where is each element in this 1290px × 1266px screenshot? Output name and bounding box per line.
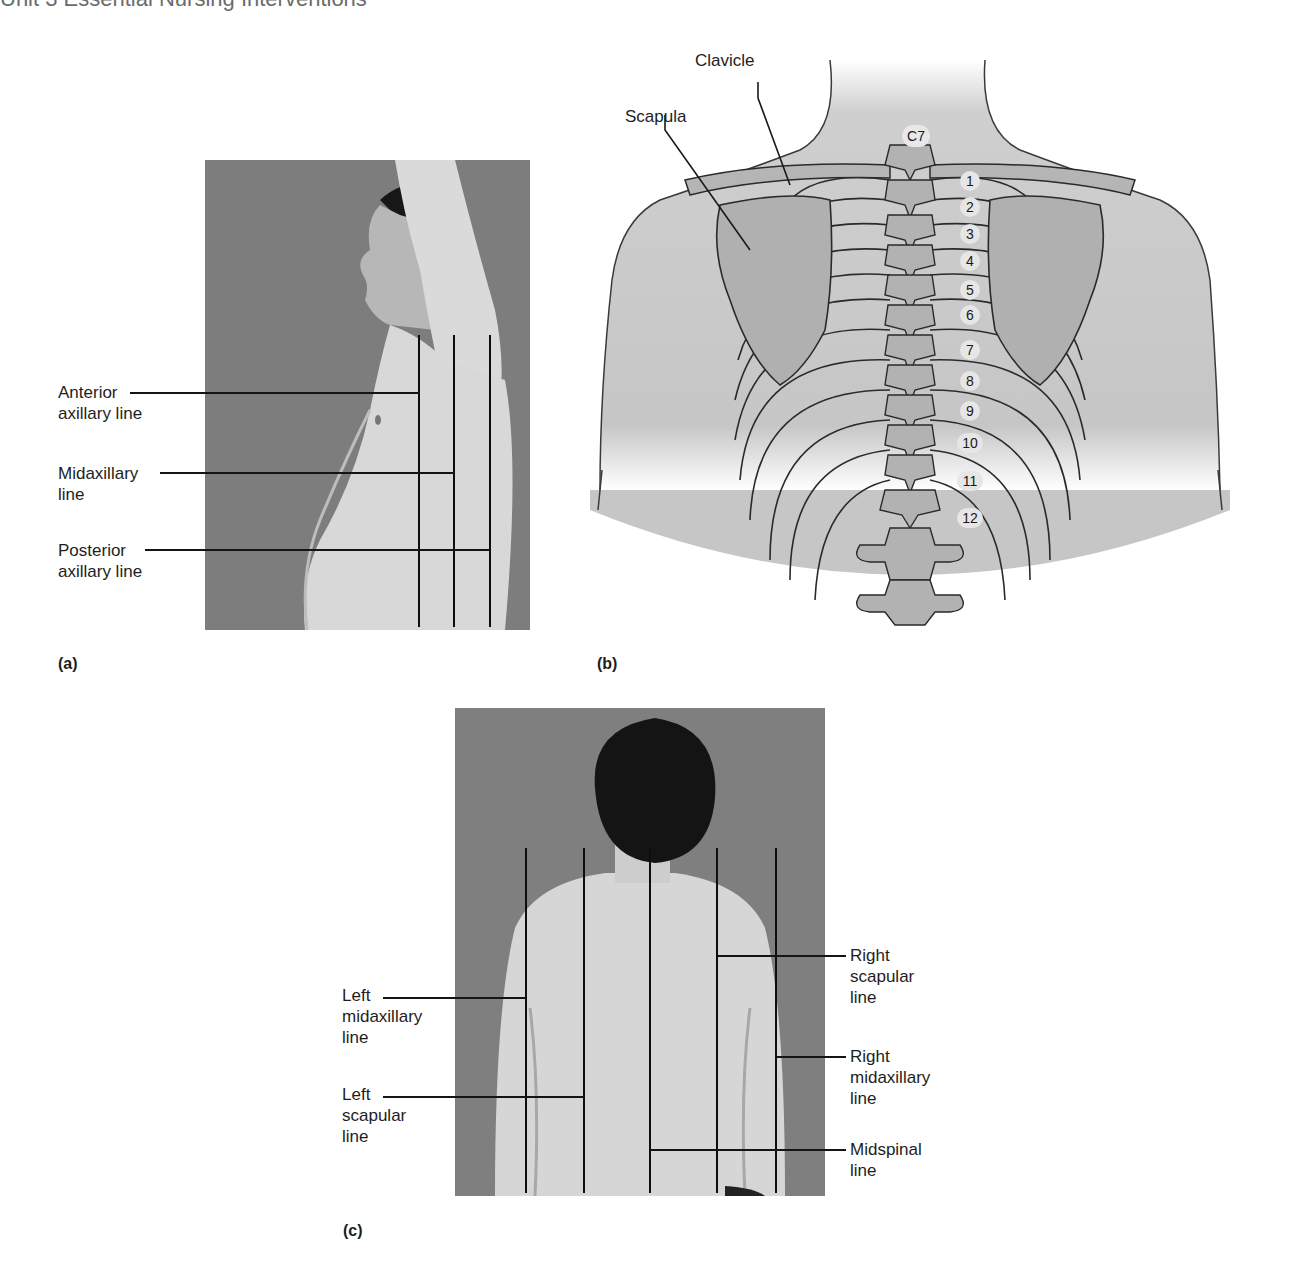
- anterior-axillary-line: [418, 335, 420, 627]
- leader-posterior-axillary: [145, 549, 490, 551]
- right-scapular-line: [716, 848, 718, 1193]
- midspinal-line: [649, 848, 651, 1193]
- right-midaxillary-line: [775, 848, 777, 1193]
- photo-posterior-view: [455, 708, 825, 1196]
- posterior-axillary-line: [489, 335, 491, 627]
- rib-number-11: 11: [957, 471, 983, 491]
- vertebra-c7-badge: C7: [902, 125, 930, 147]
- rib-number-1: 1: [960, 171, 980, 191]
- label-left-midaxillary: Left midaxillary line: [342, 985, 422, 1048]
- leader-anterior-axillary: [130, 392, 420, 394]
- rib-number-6: 6: [960, 305, 980, 325]
- label-midaxillary: Midaxillary line: [58, 463, 138, 505]
- label-clavicle: Clavicle: [695, 50, 755, 71]
- leader-midspinal: [651, 1149, 846, 1151]
- rib-number-12: 12: [957, 508, 983, 528]
- label-midspinal: Midspinal line: [850, 1139, 922, 1181]
- lateral-body-image: [205, 160, 530, 630]
- panel-tag-c: (c): [343, 1222, 363, 1240]
- rib-number-4: 4: [960, 251, 980, 271]
- label-anterior-axillary: Anterior axillary line: [58, 382, 142, 424]
- midaxillary-line: [453, 335, 455, 627]
- leader-midaxillary: [160, 472, 455, 474]
- page-header: Unit 3 Essential Nursing Interventions: [0, 0, 367, 12]
- leader-left-scapular: [383, 1096, 585, 1098]
- label-right-scapular: Right scapular line: [850, 945, 914, 1008]
- label-scapula: Scapula: [625, 106, 686, 127]
- posterior-body-image: [455, 708, 825, 1196]
- leader-right-scapular: [718, 955, 846, 957]
- photo-lateral-view: [205, 160, 530, 630]
- panel-tag-a: (a): [58, 655, 78, 673]
- rib-number-3: 3: [960, 224, 980, 244]
- leader-right-midaxillary: [777, 1056, 846, 1058]
- rib-number-9: 9: [960, 401, 980, 421]
- rib-number-8: 8: [960, 371, 980, 391]
- label-right-midaxillary: Right midaxillary line: [850, 1046, 930, 1109]
- rib-number-5: 5: [960, 280, 980, 300]
- rib-number-2: 2: [960, 197, 980, 217]
- label-posterior-axillary: Posterior axillary line: [58, 540, 142, 582]
- label-left-scapular: Left scapular line: [342, 1084, 406, 1147]
- rib-number-10: 10: [957, 433, 983, 453]
- left-midaxillary-line: [525, 848, 527, 1193]
- left-scapular-line: [583, 848, 585, 1193]
- rib-number-7: 7: [960, 340, 980, 360]
- leader-left-midaxillary: [383, 997, 526, 999]
- panel-tag-b: (b): [597, 655, 617, 673]
